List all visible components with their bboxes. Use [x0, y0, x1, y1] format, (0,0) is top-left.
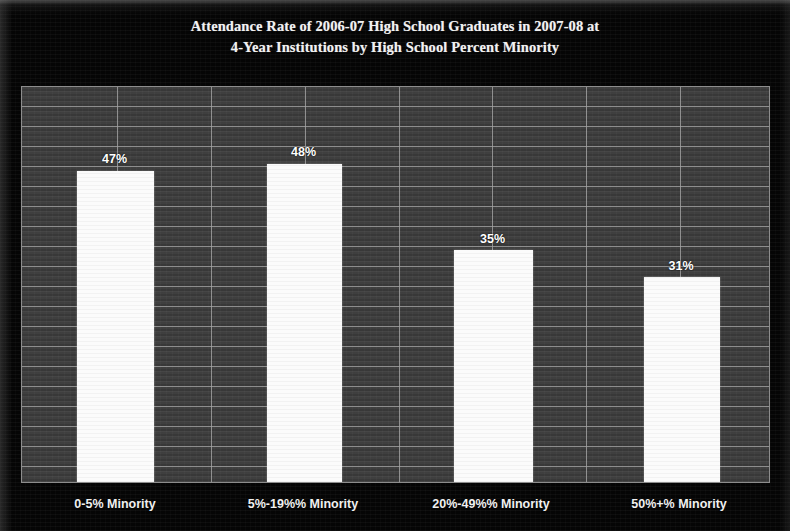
gridline-horizontal — [22, 166, 769, 167]
x-axis-label-3: 50%+% Minority — [585, 497, 773, 511]
chart-figure: Attendance Rate of 2006-07 High School G… — [0, 0, 790, 531]
bar-value-label-3: 31% — [643, 259, 719, 273]
gridline-horizontal — [22, 126, 769, 127]
gridline-vertical — [211, 87, 212, 482]
chart-title: Attendance Rate of 2006-07 High School G… — [0, 16, 790, 58]
bar-value-label-2: 35% — [453, 232, 532, 246]
bar-value-label-0: 47% — [76, 152, 153, 166]
plot-area — [21, 86, 770, 483]
gridline-vertical — [399, 87, 400, 482]
chart-title-line-2: 4-Year Institutions by High School Perce… — [0, 37, 790, 58]
bar-0-5-minority[interactable] — [77, 171, 154, 482]
gridline-horizontal — [22, 106, 769, 107]
bar-50plus-minority[interactable] — [644, 277, 720, 482]
x-axis-label-2: 20%-49%% Minority — [397, 497, 585, 511]
x-axis-label-0: 0-5% Minority — [21, 497, 209, 511]
bar-20-49-minority[interactable] — [454, 250, 533, 482]
gridline-horizontal — [22, 146, 769, 147]
gridline-vertical — [586, 87, 587, 482]
bar-value-label-1: 48% — [266, 145, 341, 159]
chart-title-line-1: Attendance Rate of 2006-07 High School G… — [0, 16, 790, 37]
x-axis-label-1: 5%-19%% Minority — [209, 497, 397, 511]
bar-5-19-minority[interactable] — [267, 164, 342, 482]
